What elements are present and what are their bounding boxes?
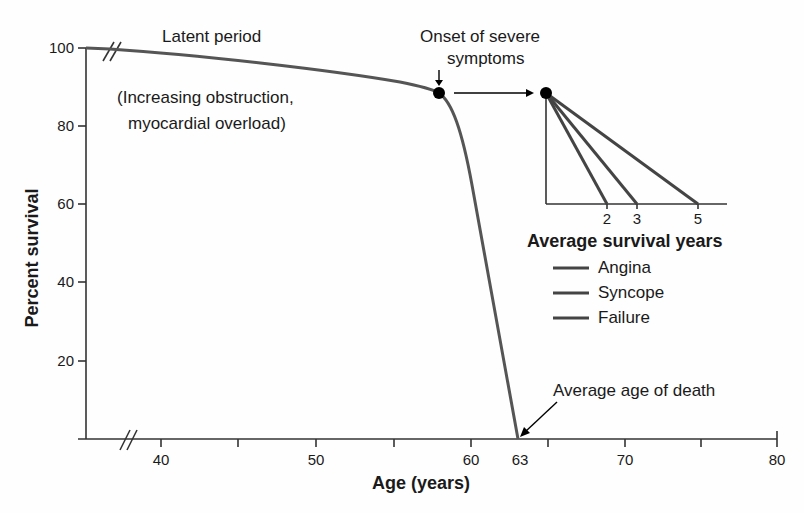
y-axis-title: Percent survival (23, 188, 41, 327)
y-axis (78, 48, 86, 439)
inset-line-failure (546, 93, 607, 204)
x-tick-label: 80 (769, 452, 786, 467)
y-tick-label: 100 (34, 40, 74, 55)
x-axis-title: Age (years) (372, 474, 470, 492)
x-tick-label: 50 (308, 452, 325, 467)
x-tick-label: 70 (617, 452, 634, 467)
chart-canvas (0, 0, 804, 513)
legend-label-angina: Angina (598, 259, 651, 276)
y-tick-label: 20 (34, 353, 74, 368)
onset-label-line-2: symptoms (447, 50, 524, 67)
inset-tick-label: 2 (603, 211, 611, 226)
x-tick-label: 40 (153, 452, 170, 467)
onset-label-line-1: Onset of severe (420, 28, 540, 45)
death-arrow-icon (520, 402, 557, 437)
inset-axes (546, 93, 727, 209)
death-label: Average age of death (553, 382, 715, 399)
inset-lines (546, 93, 698, 204)
onset-marker (433, 87, 445, 99)
x-tick-label: 63 (512, 452, 529, 467)
legend-label-syncope: Syncope (598, 284, 664, 301)
latent-period-label: Latent period (162, 28, 261, 45)
x-tick-label: 60 (463, 452, 480, 467)
right-arrow-icon (454, 89, 534, 97)
legend-swatches (553, 268, 589, 318)
down-arrow-icon (435, 70, 443, 86)
inset-title: Average survival years (527, 232, 722, 250)
latent-note-line-2: myocardial overload) (128, 115, 286, 132)
inset-marker (540, 87, 552, 99)
inset-tick-label: 5 (694, 211, 702, 226)
y-tick-label: 80 (34, 118, 74, 133)
inset-tick-label: 3 (633, 211, 641, 226)
legend-label-failure: Failure (598, 309, 650, 326)
latent-note-line-1: (Increasing obstruction, (117, 89, 294, 106)
x-axis (78, 431, 777, 447)
